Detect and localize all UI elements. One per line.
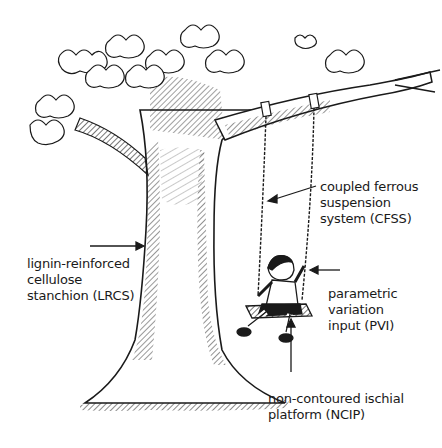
label-lrcs-line-3: stanchion (LRCS) — [27, 288, 134, 304]
label-cfss: coupled ferrous suspension system (CFSS) — [320, 179, 418, 227]
label-ncip-line-1: non-contoured ischial — [268, 391, 404, 407]
label-lrcs: lignin-reinforced cellulose stanchion (L… — [27, 256, 134, 304]
label-lrcs-line-2: cellulose — [27, 272, 134, 288]
label-pvi-line-2: variation — [328, 302, 397, 318]
label-lrcs-line-1: lignin-reinforced — [27, 256, 134, 272]
label-pvi-line-3: input (PVI) — [328, 318, 397, 334]
child-on-swing — [237, 256, 304, 342]
label-cfss-line-3: system (CFSS) — [320, 211, 418, 227]
swing-seat — [246, 304, 312, 318]
label-pvi: parametric variation input (PVI) — [328, 286, 397, 334]
label-ncip: non-contoured ischial platform (NCIP) — [268, 391, 404, 423]
label-cfss-line-1: coupled ferrous — [320, 179, 418, 195]
cfss-arrow — [272, 186, 316, 200]
label-cfss-line-2: suspension — [320, 195, 418, 211]
right-branch — [215, 70, 440, 140]
label-pvi-line-1: parametric — [328, 286, 397, 302]
label-ncip-line-2: platform (NCIP) — [268, 407, 404, 423]
tree-swing-diagram: coupled ferrous suspension system (CFSS)… — [0, 0, 442, 448]
left-branch — [75, 118, 148, 175]
